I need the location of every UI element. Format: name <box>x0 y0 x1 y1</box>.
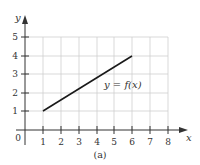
figure-caption: (a) <box>93 149 106 160</box>
x-tick-label: 2 <box>58 137 64 147</box>
y-tick-label: 5 <box>12 32 18 42</box>
y-axis-arrow-icon <box>22 15 28 24</box>
x-tick-label: 8 <box>165 137 171 147</box>
x-tick-label: 4 <box>94 137 100 147</box>
x-tick-label: 1 <box>40 137 46 147</box>
function-label: y = f(x) <box>103 79 142 90</box>
y-tick-label: 4 <box>12 51 18 61</box>
axes <box>16 20 183 145</box>
x-tick-label: 6 <box>129 137 135 147</box>
grid <box>25 37 168 130</box>
x-tick-label: 5 <box>111 137 117 147</box>
y-axis-label: y <box>14 12 21 23</box>
chart-canvas: 1 2 3 4 5 6 7 8 1 2 3 4 5 0 y x y = f(x)… <box>0 0 200 165</box>
x-tick-label: 7 <box>147 137 153 147</box>
x-tick-label: 3 <box>76 137 82 147</box>
x-tick-labels: 1 2 3 4 5 6 7 8 <box>40 137 171 147</box>
y-tick-label: 2 <box>12 88 18 98</box>
x-axis-label: x <box>186 132 192 143</box>
y-tick-labels: 1 2 3 4 5 <box>12 32 18 116</box>
origin-label: 0 <box>15 133 21 143</box>
y-tick-label: 3 <box>12 69 18 79</box>
y-tick-label: 1 <box>12 106 18 116</box>
